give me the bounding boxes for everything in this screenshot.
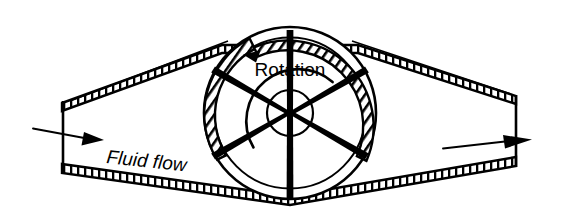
inlet-flow-arrow — [33, 129, 104, 146]
paddle-wheel — [204, 27, 376, 199]
diagram-canvas: Rotation Fluid flow — [0, 0, 561, 218]
outlet-flow-arrow-shaft — [443, 142, 505, 149]
wheel-hub-center-dot — [288, 111, 293, 116]
outlet-flow-arrow — [443, 135, 532, 149]
outlet-flow-arrow-head — [503, 135, 532, 149]
housing-guide-right — [352, 41, 511, 94]
flow-meter-diagram: Rotation Fluid flow — [0, 0, 561, 218]
inlet-flow-arrow-head — [82, 132, 105, 146]
inlet-flow-arrow-shaft — [33, 129, 87, 139]
wheel-spoke-270 — [287, 113, 294, 198]
rotation-label: Rotation — [255, 59, 326, 80]
housing-guide-left — [70, 41, 228, 101]
